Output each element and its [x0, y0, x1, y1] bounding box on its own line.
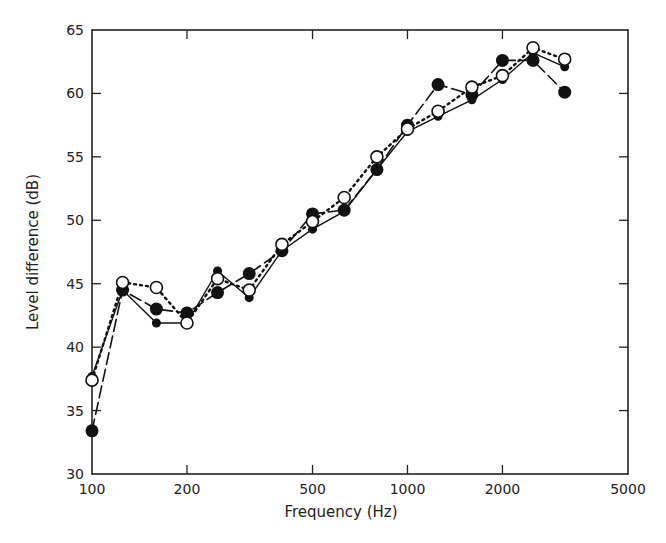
large-filled-circle-marker: [211, 286, 224, 299]
y-tick-label: 40: [66, 339, 84, 355]
open-circle-marker: [117, 276, 129, 288]
series-line: [92, 60, 565, 431]
open-circle-marker: [150, 282, 162, 294]
large-filled-circle-marker: [432, 78, 445, 91]
x-tick-label: 500: [299, 481, 326, 497]
x-tick-label: 1000: [390, 481, 426, 497]
open-circle-marker: [401, 123, 413, 135]
y-axis-title: Level difference (dB): [24, 174, 42, 330]
x-tick-label: 5000: [610, 481, 646, 497]
y-tick-label: 35: [66, 403, 84, 419]
markers-filled-large: [86, 54, 572, 437]
open-circle-marker: [307, 216, 319, 228]
large-filled-circle-marker: [86, 424, 99, 437]
open-circle-marker: [338, 191, 350, 203]
open-circle-marker: [432, 105, 444, 117]
series-dashed: [92, 60, 565, 431]
y-tick-label: 30: [66, 466, 84, 482]
large-filled-circle-marker: [150, 303, 163, 316]
markers-filled-small: [88, 48, 570, 380]
series-solid: [92, 53, 565, 377]
level-difference-chart: 3035404550556065100200500100020005000 Fr…: [0, 0, 666, 543]
large-filled-circle-marker: [496, 54, 509, 67]
open-circle-marker: [276, 238, 288, 250]
large-filled-circle-marker: [338, 204, 351, 217]
markers-open: [86, 42, 571, 386]
x-axis-title: Frequency (Hz): [284, 503, 397, 521]
y-tick-label: 60: [66, 85, 84, 101]
series-line: [92, 48, 565, 380]
x-tick-label: 200: [174, 481, 201, 497]
small-filled-circle-marker: [152, 319, 161, 328]
large-filled-circle-marker: [370, 163, 383, 176]
series-line: [92, 53, 565, 377]
open-circle-marker: [212, 273, 224, 285]
series-layer: [86, 42, 572, 438]
large-filled-circle-marker: [527, 54, 540, 67]
y-tick-label: 50: [66, 212, 84, 228]
large-filled-circle-marker: [558, 86, 571, 99]
open-circle-marker: [496, 70, 508, 82]
open-circle-marker: [86, 374, 98, 386]
x-tick-label: 100: [79, 481, 106, 497]
y-tick-label: 55: [66, 149, 84, 165]
plot-frame: [92, 30, 628, 474]
x-tick-label: 2000: [485, 481, 521, 497]
open-circle-marker: [181, 317, 193, 329]
open-circle-marker: [243, 284, 255, 296]
open-circle-marker: [559, 53, 571, 65]
open-circle-marker: [527, 42, 539, 54]
y-tick-label: 65: [66, 22, 84, 38]
series-dotted: [92, 48, 565, 380]
y-tick-label: 45: [66, 276, 84, 292]
open-circle-marker: [371, 151, 383, 163]
open-circle-marker: [466, 81, 478, 93]
large-filled-circle-marker: [243, 267, 256, 280]
